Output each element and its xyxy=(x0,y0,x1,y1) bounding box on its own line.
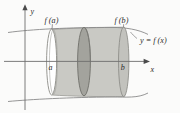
label-x-axis: x xyxy=(150,65,155,74)
figure-canvas: f (a) f (b) y = f (x) a b x y xyxy=(0,0,180,113)
label-f-of-b: f (b) xyxy=(115,16,129,25)
solid-of-revolution-figure: f (a) f (b) y = f (x) a b x y xyxy=(0,0,180,113)
y-axis xyxy=(22,4,27,110)
label-a: a xyxy=(49,63,53,72)
label-b: b xyxy=(121,63,125,72)
label-f-of-a: f (a) xyxy=(45,16,59,25)
equation-leader xyxy=(131,32,138,39)
y-axis-arrowhead xyxy=(22,4,27,10)
label-equation-y-equals-f-of-x: y = f (x) xyxy=(139,36,167,45)
x-axis-arrowhead xyxy=(144,59,150,64)
label-y-axis: y xyxy=(30,7,35,16)
